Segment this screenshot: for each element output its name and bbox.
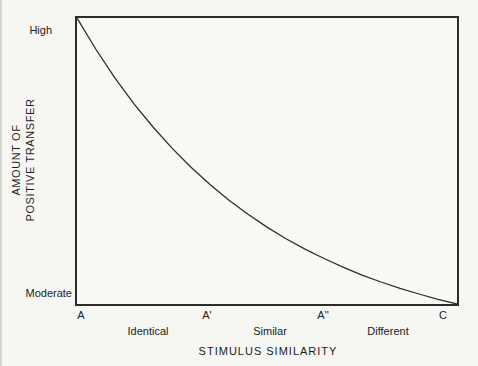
y-tick-moderate: Moderate [0,287,72,300]
x-tick-a: A [77,309,84,322]
plot-area [75,16,459,306]
x-region-similar: Similar [253,325,287,338]
transfer-similarity-chart: AMOUNT OF POSITIVE TRANSFER High Moderat… [0,0,478,366]
scan-edge-artifact [0,0,3,366]
x-tick-c: C [439,309,447,322]
x-axis-title: STIMULUS SIMILARITY [199,345,338,358]
y-axis-title: AMOUNT OF POSITIVE TRANSFER [9,98,37,221]
y-axis-title-line1: AMOUNT OF [9,98,23,221]
x-region-different: Different [367,325,408,338]
x-tick-a-double-prime: A'' [317,309,329,322]
transfer-curve [77,18,457,304]
transfer-curve-canvas [77,18,457,304]
y-axis-title-line2: POSITIVE TRANSFER [23,98,37,221]
x-tick-a-prime: A' [202,309,211,322]
x-region-identical: Identical [128,325,169,338]
y-tick-high: High [0,24,52,37]
